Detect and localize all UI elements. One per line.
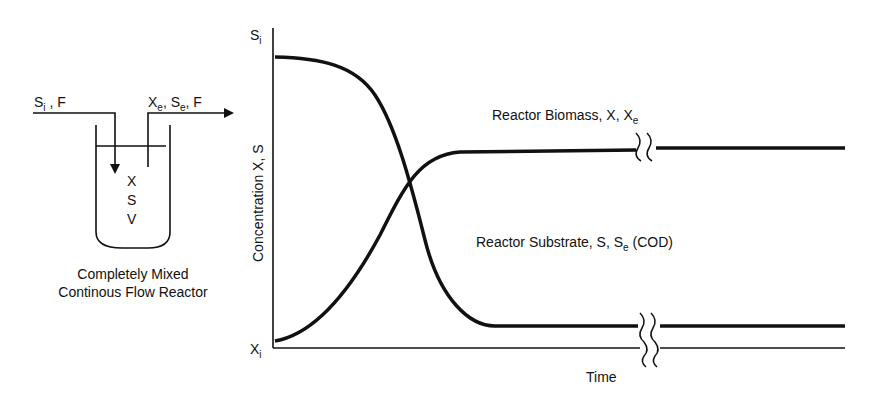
substrate-curve [275,57,638,326]
inlet-arrow [33,113,120,174]
inlet-label: Si , F [34,95,66,109]
axis-break-icon [636,133,658,367]
reactor-content-x: X [127,174,136,188]
y-axis-label: Concentration X, S [250,144,266,262]
outlet-arrow [148,108,234,167]
reactor-content-s: S [127,193,136,207]
substrate-label: Reactor Substrate, S, Se (COD) [476,235,673,249]
outlet-label: Xe, Se, F [148,95,202,109]
y-tick-si: Si [250,28,262,42]
biomass-label: Reactor Biomass, X, Xe [492,108,638,122]
x-axis-label: Time [586,370,617,384]
reactor-content-v: V [127,212,136,226]
y-tick-xi: Xi [250,342,262,356]
reactor-caption: Completely Mixed Continous Flow Reactor [28,265,238,301]
